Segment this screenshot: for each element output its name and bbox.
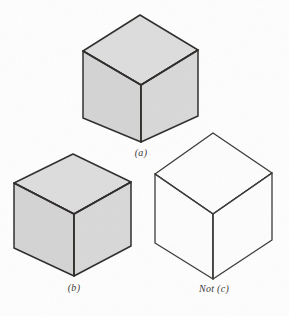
figure-container: (a) (b) Not (c) (0, 0, 289, 316)
cubes-diagram (0, 0, 289, 316)
cube-a (83, 15, 198, 142)
cube-b-label: (b) (68, 282, 81, 293)
cube-c (155, 133, 272, 279)
cube-c-label: Not (c) (199, 283, 229, 294)
cube-a-label: (a) (135, 147, 148, 158)
cube-b (14, 154, 131, 276)
